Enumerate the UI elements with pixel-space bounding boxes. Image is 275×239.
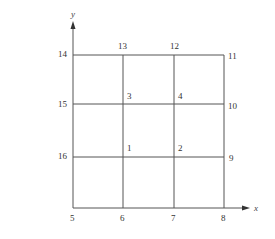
mesh-diagram: y x 12345678910111213141516: [0, 0, 275, 239]
node-label-16: 16: [58, 151, 68, 161]
node-label-6: 6: [120, 213, 125, 223]
x-axis-label: x: [253, 203, 258, 213]
node-label-10: 10: [228, 101, 238, 111]
node-label-2: 2: [178, 143, 183, 153]
node-label-1: 1: [127, 143, 132, 153]
node-label-5: 5: [70, 213, 75, 223]
node-label-14: 14: [58, 49, 68, 59]
mesh-canvas: y x 12345678910111213141516: [0, 0, 275, 239]
axes: y x: [70, 9, 258, 213]
node-label-11: 11: [228, 51, 237, 61]
node-label-12: 12: [170, 41, 179, 51]
node-label-4: 4: [178, 91, 183, 101]
node-label-8: 8: [221, 213, 226, 223]
node-labels: 12345678910111213141516: [58, 41, 238, 223]
x-axis-arrow-icon: [242, 206, 250, 211]
node-label-13: 13: [118, 41, 128, 51]
y-axis-label: y: [70, 9, 75, 19]
node-label-7: 7: [171, 213, 176, 223]
node-label-9: 9: [229, 153, 234, 163]
y-axis-arrow-icon: [71, 21, 76, 29]
node-label-15: 15: [58, 99, 68, 109]
node-label-3: 3: [127, 91, 132, 101]
grid-lines: [73, 55, 224, 208]
